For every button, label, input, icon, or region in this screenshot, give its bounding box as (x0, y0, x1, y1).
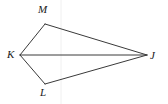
vertex-label-L: L (40, 87, 46, 98)
geometry-diagram: M K J L (0, 0, 168, 104)
vertex-label-M: M (38, 4, 47, 15)
vertex-label-J: J (150, 50, 155, 61)
vertex-label-K: K (7, 49, 14, 60)
segment-KL (20, 55, 45, 84)
segment-KM (20, 24, 45, 55)
segment-MJ (45, 24, 147, 55)
segment-LJ (45, 55, 147, 84)
figure-canvas (0, 0, 168, 104)
